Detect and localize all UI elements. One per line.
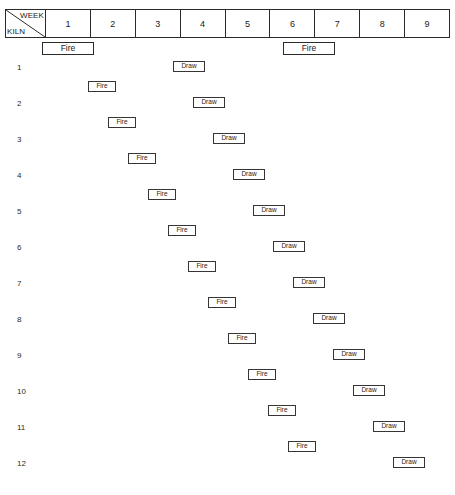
- fire-box-kiln-5-label: Fire: [176, 227, 187, 234]
- kiln-row-label-2: 2: [17, 99, 21, 109]
- kiln-row-label-12: 12: [17, 459, 26, 469]
- fire-box-kiln-4[interactable]: Fire: [148, 189, 176, 200]
- fire-box-kiln-5[interactable]: Fire: [168, 225, 196, 236]
- kiln-row-label-10: 10: [17, 387, 26, 397]
- caption-fragment: [8, 0, 308, 8]
- kiln-row-label-6: 6: [17, 243, 21, 253]
- week-column-label: 7: [335, 19, 340, 29]
- draw-box-kiln-9[interactable]: Draw: [333, 349, 365, 360]
- draw-box-kiln-8[interactable]: Draw: [313, 313, 345, 324]
- draw-box-kiln-10[interactable]: Draw: [353, 385, 385, 396]
- week-column-1[interactable]: 1: [46, 10, 91, 37]
- fire-box-kiln-3-label: Fire: [136, 155, 147, 162]
- week-column-label: 4: [200, 19, 205, 29]
- draw-box-kiln-3[interactable]: Draw: [213, 133, 245, 144]
- week-column-5[interactable]: 5: [226, 10, 271, 37]
- corner-label-week: WEEK: [20, 10, 44, 21]
- draw-box-kiln-5[interactable]: Draw: [253, 205, 285, 216]
- week-column-label: 6: [290, 19, 295, 29]
- week-column-label: 2: [110, 19, 115, 29]
- week-column-2[interactable]: 2: [91, 10, 136, 37]
- fire-box-kiln-10[interactable]: Fire: [268, 405, 296, 416]
- draw-box-kiln-4[interactable]: Draw: [233, 169, 265, 180]
- fire-box-kiln-9-label: Fire: [256, 371, 267, 378]
- kiln-row-label-5: 5: [17, 207, 21, 217]
- fire-box-kiln-1-label: Fire: [96, 83, 107, 90]
- fire-box-kiln-3[interactable]: Fire: [128, 153, 156, 164]
- kiln-row-label-3: 3: [17, 135, 21, 145]
- draw-box-kiln-4-label: Draw: [241, 171, 256, 178]
- fire-box-kiln-11-label: Fire: [296, 443, 307, 450]
- kiln-row-label-9: 9: [17, 351, 21, 361]
- draw-box-kiln-10-label: Draw: [361, 387, 376, 394]
- draw-box-kiln-11-label: Draw: [381, 423, 396, 430]
- fire-box-kiln-9[interactable]: Fire: [248, 369, 276, 380]
- draw-box-kiln-12[interactable]: Draw: [393, 457, 425, 468]
- draw-box-kiln-7-label: Draw: [301, 279, 316, 286]
- fire-box-kiln-7-label: Fire: [216, 299, 227, 306]
- draw-box-kiln-11[interactable]: Draw: [373, 421, 405, 432]
- draw-box-kiln-5-label: Draw: [261, 207, 276, 214]
- fire-box-kiln-11[interactable]: Fire: [288, 441, 316, 452]
- header-fire-box-2-label: Fire: [302, 44, 317, 53]
- header-fire-box-1-label: Fire: [61, 44, 76, 53]
- week-column-3[interactable]: 3: [136, 10, 181, 37]
- week-column-label: 3: [155, 19, 160, 29]
- fire-box-kiln-2[interactable]: Fire: [108, 117, 136, 128]
- draw-box-kiln-7[interactable]: Draw: [293, 277, 325, 288]
- draw-box-kiln-2[interactable]: Draw: [193, 97, 225, 108]
- draw-box-kiln-6-label: Draw: [281, 243, 296, 250]
- week-column-8[interactable]: 8: [360, 10, 405, 37]
- draw-box-kiln-1-label: Draw: [181, 63, 196, 70]
- header-fire-box-2[interactable]: Fire: [283, 42, 335, 55]
- fire-box-kiln-2-label: Fire: [116, 119, 127, 126]
- week-column-9[interactable]: 9: [405, 10, 449, 37]
- week-column-4[interactable]: 4: [181, 10, 226, 37]
- draw-box-kiln-6[interactable]: Draw: [273, 241, 305, 252]
- kiln-row-label-8: 8: [17, 315, 21, 325]
- week-column-label: 9: [425, 19, 430, 29]
- corner-cell-week-kiln: WEEK KILN: [6, 10, 46, 37]
- fire-box-kiln-6-label: Fire: [196, 263, 207, 270]
- corner-label-kiln: KILN: [7, 26, 25, 37]
- week-column-label: 1: [65, 19, 70, 29]
- week-column-6[interactable]: 6: [270, 10, 315, 37]
- fire-box-kiln-10-label: Fire: [276, 407, 287, 414]
- week-header-table: WEEK KILN 123456789: [5, 9, 450, 38]
- draw-box-kiln-2-label: Draw: [201, 99, 216, 106]
- kiln-row-label-7: 7: [17, 279, 21, 289]
- fire-box-kiln-8-label: Fire: [236, 335, 247, 342]
- kiln-row-label-4: 4: [17, 171, 21, 181]
- fire-box-kiln-8[interactable]: Fire: [228, 333, 256, 344]
- fire-box-kiln-6[interactable]: Fire: [188, 261, 216, 272]
- week-column-label: 5: [245, 19, 250, 29]
- draw-box-kiln-1[interactable]: Draw: [173, 61, 205, 72]
- fire-box-kiln-7[interactable]: Fire: [208, 297, 236, 308]
- draw-box-kiln-9-label: Draw: [341, 351, 356, 358]
- draw-box-kiln-12-label: Draw: [401, 459, 416, 466]
- draw-box-kiln-8-label: Draw: [321, 315, 336, 322]
- kiln-row-label-11: 11: [17, 423, 25, 433]
- kiln-firing-schedule-page: WEEK KILN 123456789 FireFire1DrawFire2Dr…: [0, 0, 455, 495]
- fire-box-kiln-4-label: Fire: [156, 191, 167, 198]
- draw-box-kiln-3-label: Draw: [221, 135, 236, 142]
- kiln-row-label-1: 1: [17, 63, 21, 73]
- fire-box-kiln-1[interactable]: Fire: [88, 81, 116, 92]
- week-column-label: 8: [380, 19, 385, 29]
- week-column-7[interactable]: 7: [315, 10, 360, 37]
- header-fire-box-1[interactable]: Fire: [42, 42, 94, 55]
